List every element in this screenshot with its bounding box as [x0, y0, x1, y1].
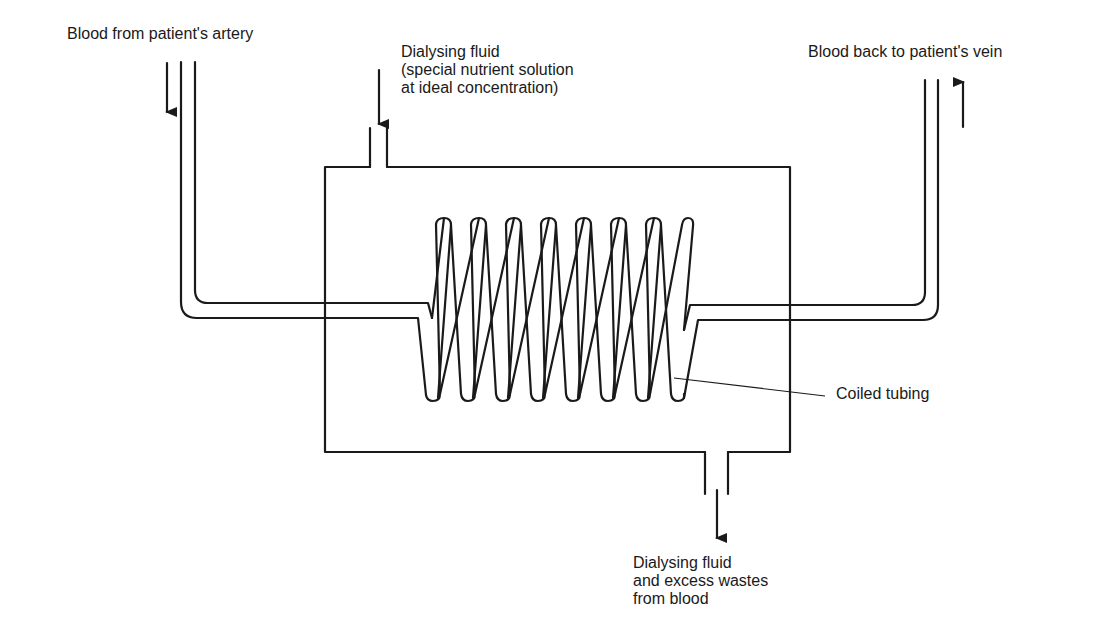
label-dialysing-fluid-in: Dialysing fluid (special nutrient soluti…	[401, 43, 574, 97]
label-blood-from-artery: Blood from patient's artery	[67, 25, 253, 43]
coil-leader-line	[674, 378, 825, 396]
label-coiled-tubing: Coiled tubing	[836, 385, 929, 403]
label-line: and excess wastes	[633, 572, 768, 590]
label-line: (special nutrient solution	[401, 61, 574, 79]
fluid-inlet-pipe	[370, 128, 387, 167]
coiled-tubing	[426, 218, 693, 401]
arterial-tube	[181, 62, 432, 395]
fluid-outlet-pipe	[705, 452, 728, 494]
venous-tube	[684, 80, 938, 398]
dialysis-chamber	[325, 167, 790, 452]
label-line: Dialysing fluid	[633, 554, 768, 572]
label-blood-back-to-vein: Blood back to patient's vein	[808, 43, 1002, 61]
label-line: from blood	[633, 590, 768, 608]
label-dialysing-fluid-out: Dialysing fluid and excess wastes from b…	[633, 554, 768, 608]
label-line: at ideal concentration)	[401, 79, 574, 97]
label-line: Dialysing fluid	[401, 43, 574, 61]
